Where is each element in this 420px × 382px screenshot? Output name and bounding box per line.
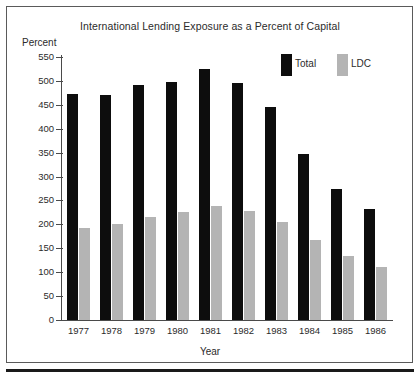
bar-ldc-1977 [79, 228, 90, 320]
legend-label: Total [295, 58, 316, 69]
x-axis-tick-label: 1985 [326, 325, 359, 336]
bar-total-1983 [265, 107, 276, 320]
bar-total-1985 [331, 189, 342, 320]
bar-ldc-1983 [277, 222, 288, 320]
legend-swatch-ldc [337, 54, 348, 76]
y-axis-tick-label: 450 [6, 99, 54, 110]
y-axis-tick-label: 250 [6, 194, 54, 205]
y-axis-tick-label: 400 [6, 123, 54, 134]
bar-total-1981 [199, 69, 210, 320]
x-axis-tick-label: 1982 [227, 325, 260, 336]
y-axis-tick-label: 350 [6, 147, 54, 158]
x-axis-tick-label: 1984 [293, 325, 326, 336]
x-axis-tick-label: 1983 [260, 325, 293, 336]
x-axis-tick-label: 1981 [194, 325, 227, 336]
bar-total-1982 [232, 83, 243, 320]
bar-total-1986 [364, 209, 375, 320]
legend-label: LDC [351, 58, 371, 69]
bar-ldc-1979 [145, 217, 156, 320]
chart-figure: International Lending Exposure as a Perc… [0, 0, 420, 382]
plot-area [62, 57, 392, 320]
x-axis-tick-label: 1980 [161, 325, 194, 336]
bar-ldc-1985 [343, 256, 354, 320]
bar-ldc-1978 [112, 224, 123, 320]
chart-legend: TotalLDC [281, 52, 386, 78]
x-axis-tick-label: 1977 [62, 325, 95, 336]
y-axis-tick-label: 500 [6, 75, 54, 86]
x-axis-tick-label: 1986 [359, 325, 392, 336]
bar-total-1978 [100, 95, 111, 320]
y-axis-tick-label: 550 [6, 51, 54, 62]
x-axis-tick-label: 1978 [95, 325, 128, 336]
legend-swatch-total [281, 54, 292, 76]
bar-total-1984 [298, 154, 309, 320]
y-axis-tick [56, 320, 63, 321]
y-axis-tick-label: 0 [6, 314, 54, 325]
x-axis-tick-label: 1979 [128, 325, 161, 336]
bar-ldc-1981 [211, 206, 222, 320]
bar-ldc-1980 [178, 212, 189, 320]
y-axis-tick-label: 150 [6, 242, 54, 253]
bar-total-1979 [133, 85, 144, 320]
y-axis-tick-label: 200 [6, 218, 54, 229]
y-axis-tick-label: 300 [6, 171, 54, 182]
bar-ldc-1982 [244, 211, 255, 320]
bar-ldc-1984 [310, 240, 321, 320]
y-axis-tick-label: 100 [6, 266, 54, 277]
bar-ldc-1986 [376, 267, 387, 320]
bar-total-1980 [166, 82, 177, 320]
y-axis-tick-label: 50 [6, 290, 54, 301]
bar-total-1977 [67, 94, 78, 320]
